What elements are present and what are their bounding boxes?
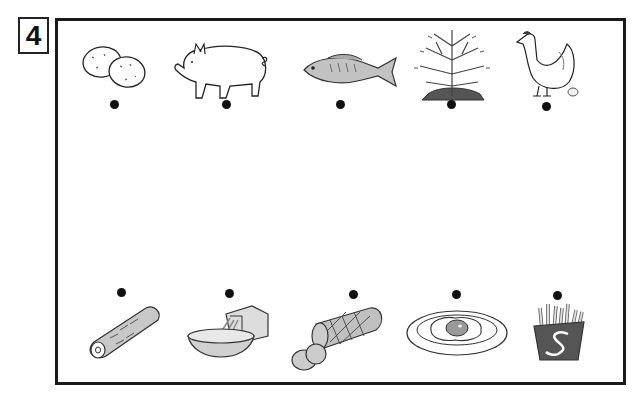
grated-cheese-dot[interactable] (225, 289, 234, 298)
hen-image (515, 30, 585, 100)
fish-image (300, 50, 400, 90)
potatoes-dot[interactable] (110, 100, 119, 109)
pig-image (172, 40, 272, 102)
tree-dot[interactable] (447, 100, 456, 109)
french-fries-image (532, 302, 588, 362)
cinnamon-stick-dot[interactable] (117, 288, 126, 297)
exercise-number: 4 (18, 17, 49, 54)
ham-dot[interactable] (349, 290, 358, 299)
fried-egg-dot[interactable] (452, 290, 461, 299)
ham-image (290, 302, 386, 374)
hen-dot[interactable] (542, 102, 551, 111)
cinnamon-stick-image (86, 302, 166, 362)
fried-egg-image (405, 308, 509, 358)
tree-image (412, 26, 492, 102)
potatoes-image (80, 42, 152, 92)
fish-dot[interactable] (336, 100, 345, 109)
pig-dot[interactable] (222, 100, 231, 109)
french-fries-dot[interactable] (553, 291, 562, 300)
grated-cheese-image (186, 302, 272, 362)
